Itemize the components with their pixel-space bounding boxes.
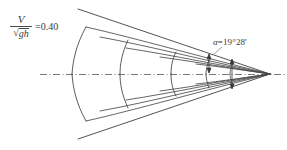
radicand-gh: gh [19, 28, 29, 39]
angle-marker-right-arrow-bottom [230, 84, 234, 89]
alpha-value: =19°28′ [218, 37, 247, 47]
kelvin-angle-label: α=19°28′ [213, 37, 247, 47]
transverse-crest-lower-2 [120, 74, 128, 108]
transverse-crest-lower-3 [171, 74, 176, 96]
transverse-crest-lower-1 [72, 74, 86, 121]
outer-envelope-lower-line [78, 74, 270, 139]
angle-marker-left-arrow-bottom [207, 68, 211, 73]
diverging-line-upper-1 [86, 27, 270, 74]
diverging-line-upper-3 [126, 48, 270, 74]
ship-wave-figure: V √gh =0.40 α=19°28′ [0, 0, 287, 150]
froude-value: =0.40 [35, 21, 58, 32]
froude-numerator: V [15, 14, 28, 26]
diverging-line-lower-1 [86, 74, 270, 121]
angle-marker-left-arrow-top [207, 54, 211, 59]
lower-wave-group [72, 74, 270, 139]
transverse-crest-upper-1 [72, 27, 86, 74]
angle-label-leader-line [214, 47, 222, 54]
transverse-crest-upper-3 [171, 52, 176, 74]
froude-denominator: √gh [11, 27, 31, 39]
diverging-line-lower-2 [100, 74, 270, 111]
transverse-crest-upper-2 [120, 40, 128, 74]
froude-fraction: V √gh [10, 14, 32, 39]
froude-number-label: V √gh =0.40 [10, 14, 58, 39]
diverging-line-lower-3 [126, 74, 270, 100]
angle-marker-right-arrow-top [230, 59, 234, 64]
